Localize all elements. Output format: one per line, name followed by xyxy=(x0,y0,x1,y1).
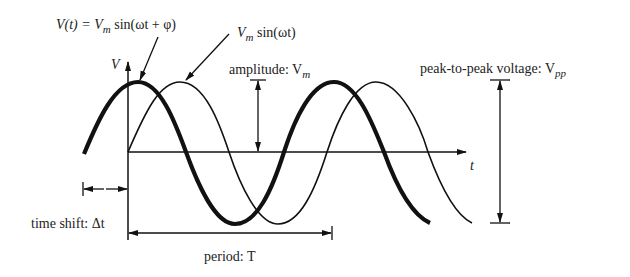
shifted-sine-formula: V(t) = Vm sin(ωt + φ) xyxy=(56,17,176,35)
time-shift-label: time shift: Δt xyxy=(31,216,105,231)
amplitude-indicator xyxy=(250,80,266,151)
t-axis-label: t xyxy=(470,158,475,173)
period-label: period: T xyxy=(204,249,256,264)
formula-leader-arrow xyxy=(140,37,158,80)
shifted-sine-curve xyxy=(84,82,430,224)
reference-sine-curve xyxy=(128,82,472,224)
reference-sine-formula: Vm sin(ωt) xyxy=(237,25,296,43)
v-axis-label: V xyxy=(111,57,121,72)
time-shift-indicator xyxy=(83,182,127,196)
reference-leader-arrow xyxy=(186,34,229,80)
amplitude-label: amplitude: Vm xyxy=(229,62,310,80)
sine-wave-diagram: V(t) = Vm sin(ωt + φ) Vm sin(ωt) V t amp… xyxy=(0,0,630,277)
period-indicator xyxy=(129,226,332,240)
peak-to-peak-label: peak-to-peak voltage: Vpp xyxy=(420,61,567,79)
peak-to-peak-indicator xyxy=(490,80,510,223)
